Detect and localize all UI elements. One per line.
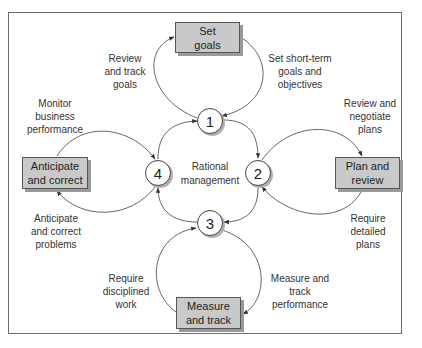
label-line: track — [271, 285, 329, 298]
label-review-and-track-goals: Review and track goals — [104, 52, 145, 91]
label-line: Set short-term — [268, 52, 331, 65]
label-set-short-term-goals: Set short-term goals and objectives — [268, 52, 331, 91]
box-set-goals: Set goals — [175, 22, 240, 53]
label-line: performance — [271, 298, 329, 311]
label-line: Review and — [344, 97, 396, 110]
label-line: problems — [31, 238, 81, 251]
label-require-disciplined-work: Require disciplined work — [103, 272, 150, 311]
box-text: and correct — [27, 173, 82, 187]
center-label-line: Rational — [181, 160, 239, 174]
label-line: Anticipate — [31, 212, 81, 225]
box-text: Plan and — [346, 159, 389, 173]
box-text: review — [352, 173, 384, 187]
box-text: Measure — [187, 299, 230, 313]
box-anticipate-and-correct: Anticipate and correct — [22, 157, 88, 189]
label-line: negotiate — [344, 110, 396, 123]
label-require-detailed-plans: Require detailed plans — [350, 212, 385, 251]
box-text: Set — [199, 24, 216, 38]
center-label: Rational management — [181, 160, 239, 188]
node-2: 2 — [245, 160, 271, 186]
label-anticipate-and-correct-problems: Anticipate and correct problems — [31, 212, 81, 251]
node-1: 1 — [197, 108, 223, 134]
center-label-line: management — [181, 174, 239, 188]
node-3: 3 — [197, 210, 223, 236]
label-line: Monitor — [27, 97, 83, 110]
box-text: goals — [194, 38, 220, 52]
label-line: goals — [104, 78, 145, 91]
label-line: Require — [103, 272, 150, 285]
node-4: 4 — [145, 160, 171, 186]
label-line: plans — [350, 238, 385, 251]
label-line: goals and — [268, 65, 331, 78]
label-line: and correct — [31, 225, 81, 238]
label-line: disciplined — [103, 285, 150, 298]
box-text: Anticipate — [31, 159, 79, 173]
label-monitor-business-performance: Monitor business performance — [27, 97, 83, 136]
label-review-and-negotiate-plans: Review and negotiate plans — [344, 97, 396, 136]
label-line: plans — [344, 123, 396, 136]
box-plan-and-review: Plan and review — [335, 157, 400, 189]
label-line: business — [27, 110, 83, 123]
label-measure-and-track-performance: Measure and track performance — [271, 272, 329, 311]
box-measure-and-track: Measure and track — [176, 297, 241, 329]
label-line: objectives — [268, 78, 331, 91]
label-line: and track — [104, 65, 145, 78]
label-line: Require — [350, 212, 385, 225]
box-text: and track — [186, 313, 231, 327]
label-line: Review — [104, 52, 145, 65]
label-line: work — [103, 298, 150, 311]
label-line: detailed — [350, 225, 385, 238]
label-line: Measure and — [271, 272, 329, 285]
label-line: performance — [27, 123, 83, 136]
